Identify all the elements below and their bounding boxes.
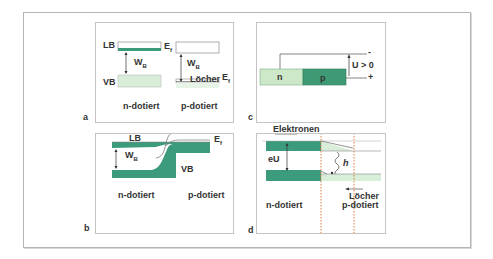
vb-label: VB <box>181 164 194 174</box>
figure-frame <box>23 12 471 248</box>
panel-d: Elektronen eU h Löcher n-dotiert p-dotie… <box>256 133 386 234</box>
panel-a: LB VB WB Ef WB Löcher Ef n-dotiert p-dot… <box>95 22 234 123</box>
minus-terminal: - <box>368 47 371 57</box>
band-diagram-forward-bias <box>257 134 385 233</box>
lb-label: LB <box>129 133 141 143</box>
wb-label-p: WB <box>187 58 200 70</box>
p-dotiert-label: p-dotiert <box>181 101 218 111</box>
eu-label: eU <box>268 154 280 164</box>
photon-h-label: h <box>343 158 349 168</box>
n-region-label: n <box>277 72 283 82</box>
panel-letter-b: b <box>84 223 90 233</box>
p-dotiert-label: p-dotiert <box>342 200 379 210</box>
ef-label-n: Ef <box>164 41 172 53</box>
vb-label: VB <box>103 77 116 87</box>
wb-label-n: WB <box>134 57 147 69</box>
ef-label-p: Ef <box>222 72 230 84</box>
elektronen-label: Elektronen <box>273 124 320 134</box>
locher-label: Löcher <box>190 74 220 84</box>
panel-c: n p U > 0 - + <box>256 22 386 123</box>
panel-b: LB Ef WB VB n-dotiert p-dotiert <box>95 133 234 234</box>
wb-label: WB <box>125 150 138 162</box>
panel-letter-c: c <box>248 112 253 122</box>
n-dotiert-label: n-dotiert <box>123 101 160 111</box>
ef-label: Ef <box>214 134 222 146</box>
panel-letter-d: d <box>248 225 254 235</box>
panel-letter-a: a <box>83 112 88 122</box>
lb-label: LB <box>103 40 115 50</box>
plus-terminal: + <box>368 72 373 82</box>
n-dotiert-label: n-dotiert <box>118 190 155 200</box>
p-dotiert-label: p-dotiert <box>188 190 225 200</box>
voltage-label: U > 0 <box>352 60 374 70</box>
n-dotiert-label: n-dotiert <box>266 200 303 210</box>
band-diagram-equilibrium <box>96 134 233 233</box>
p-region-label: p <box>320 73 326 83</box>
